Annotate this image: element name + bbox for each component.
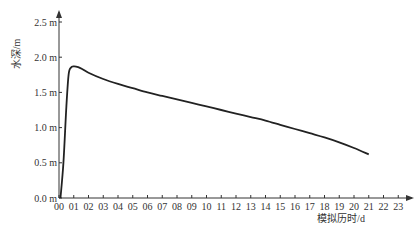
x-tick-label: 07 [157,201,167,212]
x-tick-label: 00 [54,201,64,212]
x-axis-title: 模拟历时/d [317,212,365,224]
x-tick-label: 12 [231,201,241,212]
x-tick-label: 10 [202,201,212,212]
x-tick-label: 16 [290,201,300,212]
x-tick-label: 05 [128,201,138,212]
x-axis: 0001020304050607080910111213141516171819… [54,195,414,212]
y-tick-label: 2.0 m [34,52,57,63]
x-tick-label: 06 [143,201,153,212]
x-tick-label: 09 [187,201,197,212]
x-tick-label: 14 [261,201,271,212]
x-tick-label: 01 [69,201,79,212]
series-layer [60,66,368,198]
x-tick-label: 11 [216,201,226,212]
depth-curve [60,66,368,198]
x-tick-label: 02 [84,201,94,212]
x-tick-label: 18 [320,201,330,212]
y-axis: 0.0 m0.5 m1.0 m1.5 m2.0 m2.5 m [34,10,62,204]
x-tick-label: 23 [393,201,403,212]
x-tick-label: 08 [172,201,182,212]
x-tick-label: 15 [275,201,285,212]
y-tick-label: 0.5 m [34,157,57,168]
y-axis-title: 水深/m [11,39,22,70]
y-tick-label: 1.0 m [34,122,57,133]
x-tick-label: 22 [379,201,389,212]
x-tick-label: 19 [334,201,344,212]
x-tick-label: 21 [364,201,374,212]
water-depth-chart: 0.0 m0.5 m1.0 m1.5 m2.0 m2.5 m 000102030… [0,0,420,238]
x-tick-label: 13 [246,201,256,212]
y-tick-label: 2.5 m [34,17,57,28]
y-tick-label: 1.5 m [34,87,57,98]
x-tick-label: 17 [305,201,315,212]
x-tick-label: 04 [113,201,123,212]
x-tick-label: 20 [349,201,359,212]
x-tick-label: 03 [98,201,108,212]
